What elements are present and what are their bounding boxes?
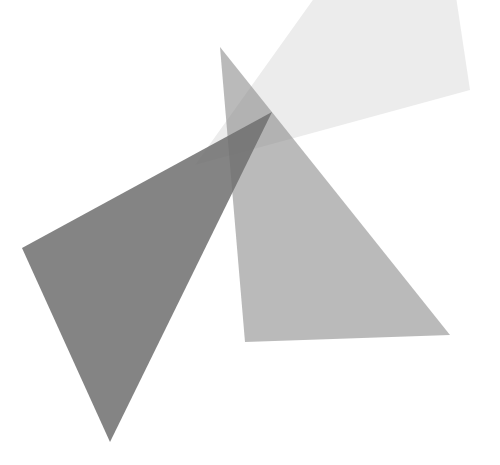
dark-triangle [22,112,272,442]
canvas [0,0,500,465]
shapes-layer [0,0,500,465]
